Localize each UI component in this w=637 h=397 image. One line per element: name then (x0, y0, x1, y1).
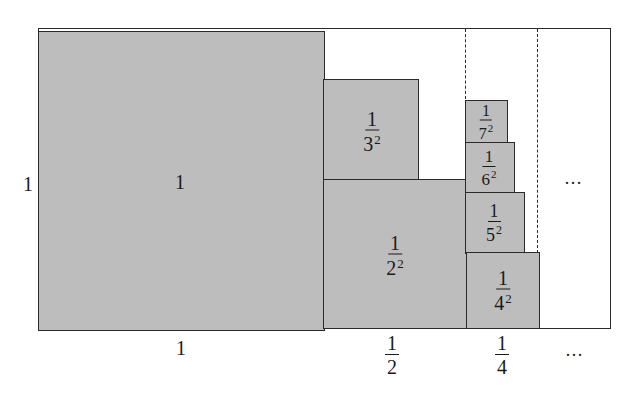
fraction-1-over-6-squared: 1 62 (482, 148, 497, 188)
fraction-1-over-5-squared: 1 52 (486, 202, 502, 244)
square-1-label: 1 (175, 172, 185, 192)
fraction-1-over-2-squared: 1 22 (386, 233, 404, 278)
fraction-1-over-3-squared: 1 32 (363, 109, 381, 154)
bottom-label-1: 1 (176, 338, 186, 358)
ellipsis-inner: … (564, 169, 584, 187)
fraction-1-over-4-squared: 1 42 (494, 268, 512, 313)
dashed-divider-eighth (537, 29, 538, 253)
side-length-label: 1 (23, 174, 33, 194)
bottom-label-quarter: 1 4 (495, 333, 509, 377)
fraction-1-over-7-squared: 1 72 (479, 103, 494, 142)
bottom-label-half: 1 2 (385, 333, 399, 377)
dashed-divider-quarter (465, 29, 466, 99)
bottom-ellipsis: … (565, 341, 585, 359)
